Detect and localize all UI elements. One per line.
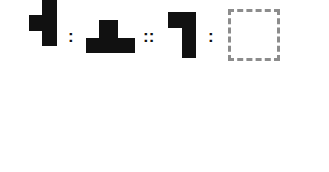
analogy-prompt-row: : :: : <box>0 0 329 90</box>
separator-2: :: <box>143 28 154 45</box>
options-row: (A) (B) (C) (D) <box>0 90 329 172</box>
prompt-shape-3 <box>168 12 196 58</box>
puzzle-canvas: : :: : (A) (B) <box>0 0 329 172</box>
prompt-shape-2-polygon <box>86 20 135 53</box>
prompt-shape-2-glyph <box>86 20 135 53</box>
prompt-shape-1-glyph <box>29 12 57 58</box>
separator-3: : <box>208 28 214 45</box>
prompt-shape-3-polygon <box>168 12 196 58</box>
prompt-shape-1-polygon <box>29 0 57 46</box>
prompt-shape-1 <box>29 12 57 58</box>
answer-placeholder-box[interactable] <box>228 9 280 61</box>
prompt-shape-3-glyph <box>168 12 196 58</box>
prompt-shape-2 <box>86 20 135 53</box>
separator-1: : <box>68 28 74 45</box>
